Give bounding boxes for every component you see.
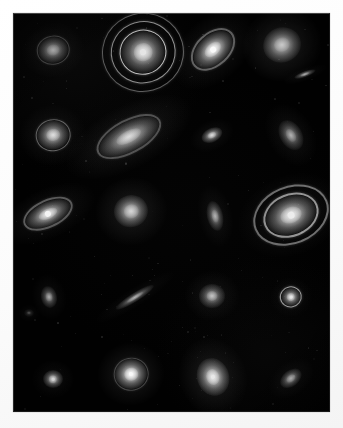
- galaxy-bulge: [123, 367, 138, 382]
- background-speck: [207, 335, 208, 336]
- background-speck: [195, 331, 196, 332]
- galaxy-bulge: [286, 292, 296, 301]
- galaxy-halo: [32, 360, 74, 398]
- background-speck: [214, 372, 215, 373]
- background-speck: [75, 333, 76, 334]
- background-speck: [262, 277, 263, 278]
- galaxy-ring: [257, 184, 326, 245]
- background-speck: [22, 164, 23, 165]
- background-speck: [298, 204, 299, 205]
- galaxy-halo: [232, 13, 330, 93]
- plate-vignette-overlay: [13, 13, 330, 412]
- galaxy-halo: [185, 271, 240, 321]
- galaxy-ring: [182, 20, 243, 80]
- galaxy-object: [38, 200, 232, 394]
- background-speck: [263, 182, 264, 183]
- background-speck: [33, 243, 34, 244]
- galaxy-halo: [19, 305, 40, 322]
- background-speck: [140, 53, 141, 54]
- galaxy-disk: [24, 309, 34, 317]
- background-speck: [23, 76, 25, 78]
- background-speck: [83, 218, 85, 220]
- background-speck: [15, 189, 16, 190]
- background-speck: [123, 334, 124, 335]
- background-speck: [192, 398, 193, 399]
- galaxy-nucleus: [209, 46, 217, 54]
- background-speck: [161, 29, 162, 30]
- background-speck: [194, 327, 195, 328]
- background-speck: [308, 347, 309, 348]
- background-speck: [304, 29, 305, 30]
- background-speck: [298, 102, 300, 104]
- background-speck: [85, 160, 86, 161]
- galaxy-object: [13, 13, 272, 280]
- galaxy-disk: [113, 356, 150, 391]
- galaxy-ring: [278, 285, 304, 310]
- background-speck: [127, 409, 128, 410]
- galaxy-halo: [88, 169, 174, 252]
- galaxy-object: [57, 13, 229, 138]
- background-speck: [94, 140, 95, 141]
- background-speck: [280, 19, 281, 20]
- background-speck: [61, 346, 62, 347]
- background-speck: [37, 23, 38, 24]
- galaxy-disk: [199, 124, 225, 146]
- galaxy-halo: [15, 99, 92, 171]
- background-speck: [104, 283, 105, 284]
- galaxy-bulge: [132, 41, 154, 63]
- galaxy-ring: [89, 105, 168, 169]
- background-speck: [241, 270, 242, 271]
- background-speck: [58, 63, 60, 65]
- background-speck: [301, 231, 303, 233]
- galaxy-object: [254, 260, 328, 334]
- galaxy-bulge: [272, 35, 292, 54]
- background-speck: [148, 294, 150, 296]
- galaxy-ring: [34, 33, 71, 67]
- galaxy-object: [64, 144, 197, 277]
- galaxy-bulge: [122, 203, 139, 220]
- galaxy-nucleus: [287, 211, 296, 220]
- galaxy-object: [204, 13, 330, 123]
- galaxy-nucleus: [129, 372, 134, 377]
- background-speck: [280, 182, 281, 183]
- background-speck: [191, 76, 193, 78]
- background-speck: [101, 18, 103, 20]
- galaxy-bulge: [207, 291, 218, 301]
- background-speck: [200, 64, 202, 66]
- galaxy-bulge: [49, 375, 57, 383]
- background-speck: [182, 225, 183, 226]
- galaxy-disk: [36, 35, 70, 66]
- background-speck: [189, 77, 190, 78]
- background-speck: [148, 257, 150, 259]
- galaxy-object: [72, 315, 191, 412]
- background-speck: [283, 240, 284, 241]
- galaxy-bulge: [126, 290, 144, 303]
- background-speck: [188, 46, 190, 48]
- background-speck: [262, 209, 263, 210]
- galaxy-bulge: [210, 209, 219, 223]
- background-speck: [146, 27, 147, 28]
- plate-noise-overlay: [13, 13, 330, 412]
- background-speck: [52, 103, 53, 104]
- background-speck: [287, 121, 288, 122]
- galaxy-bulge: [45, 292, 53, 302]
- background-speck: [148, 30, 150, 32]
- galaxy-halo: [254, 94, 328, 175]
- galaxy-halo: [169, 329, 258, 412]
- background-speck: [277, 387, 278, 388]
- background-speck: [25, 44, 26, 45]
- background-speck: [69, 231, 70, 232]
- galaxy-disk: [21, 193, 75, 235]
- background-speck: [179, 60, 180, 61]
- background-speck: [313, 358, 315, 360]
- galaxy-disk: [114, 282, 156, 313]
- background-speck: [31, 97, 33, 99]
- background-speck: [154, 275, 155, 276]
- galaxy-bulge: [300, 71, 310, 77]
- background-speck: [43, 81, 44, 82]
- galaxy-object: [237, 324, 330, 412]
- galaxy-halo: [87, 13, 199, 107]
- galaxy-ring: [244, 174, 330, 257]
- background-speck: [157, 263, 159, 265]
- galaxy-disk: [280, 286, 303, 308]
